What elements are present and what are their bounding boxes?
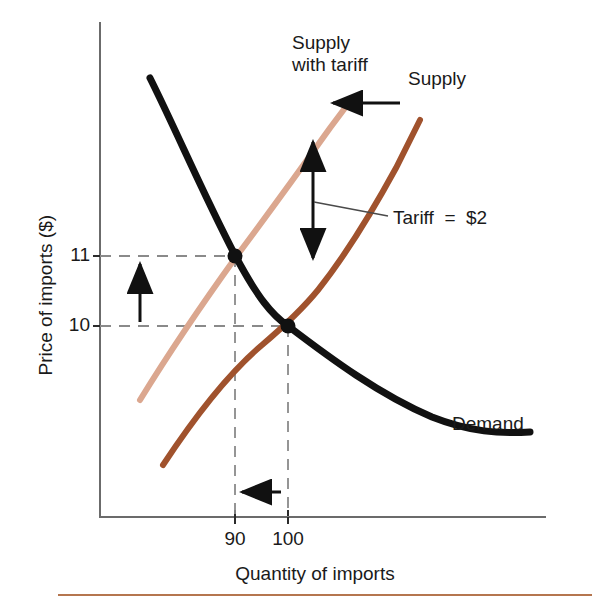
y-axis-title: Price of imports ($) — [35, 185, 57, 405]
x-tick-label-90: 90 — [213, 528, 257, 550]
demand-label: Demand — [452, 413, 524, 435]
equilibrium-point-with-tariff — [228, 249, 243, 264]
supply-with-tariff-label-line1: Supply — [292, 32, 350, 53]
tariff-supply-demand-figure: Supplywith tariff Supply Demand Tariff =… — [0, 0, 605, 614]
supply-label: Supply — [408, 68, 466, 90]
equilibrium-point-free-trade — [281, 319, 296, 334]
tariff-annotation-label: Tariff = $2 — [393, 207, 487, 229]
supply-with-tariff-label: Supplywith tariff — [292, 32, 368, 77]
y-tick-label-11: 11 — [46, 244, 90, 266]
x-tick-label-100: 100 — [266, 528, 310, 550]
chart-canvas — [0, 0, 605, 614]
supply-with-tariff-curve — [140, 104, 348, 400]
supply-curve — [163, 120, 420, 465]
supply-with-tariff-label-line2: with tariff — [292, 54, 368, 75]
x-axis-title: Quantity of imports — [185, 563, 445, 585]
y-tick-label-10: 10 — [46, 314, 90, 336]
